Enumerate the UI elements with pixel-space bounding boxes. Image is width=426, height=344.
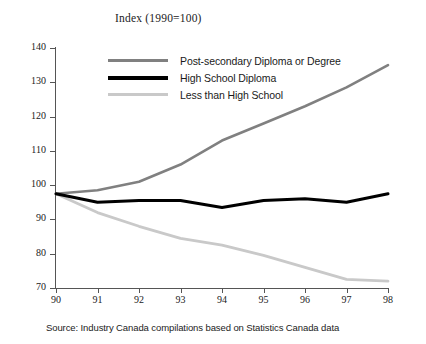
y-tick-label: 130 <box>20 75 46 86</box>
y-tick-mark <box>50 82 55 83</box>
x-tick-label: 97 <box>335 294 359 305</box>
y-tick-mark <box>50 117 55 118</box>
y-tick-mark <box>50 288 55 289</box>
legend-item-post-secondary: Post-secondary Diploma or Degree <box>108 52 341 69</box>
y-tick-label: 140 <box>20 41 46 52</box>
y-tick-mark <box>50 254 55 255</box>
x-tick-label: 98 <box>376 294 400 305</box>
legend-swatch-post-secondary <box>108 59 168 62</box>
x-tick-mark <box>181 288 182 293</box>
y-axis-line <box>55 47 56 289</box>
legend-item-high-school: High School Diploma <box>108 69 341 86</box>
legend-item-less-than-high-school: Less than High School <box>108 86 341 103</box>
y-tick-label: 110 <box>20 144 46 155</box>
series-line <box>56 194 388 281</box>
x-tick-label: 94 <box>210 294 234 305</box>
legend-label-less-than-high-school: Less than High School <box>180 89 283 101</box>
x-tick-mark <box>347 288 348 293</box>
x-tick-mark <box>222 288 223 293</box>
y-tick-label: 100 <box>20 178 46 189</box>
chart-legend: Post-secondary Diploma or Degree High Sc… <box>108 52 341 103</box>
legend-swatch-high-school <box>108 76 168 80</box>
x-tick-mark <box>305 288 306 293</box>
y-tick-mark <box>50 185 55 186</box>
x-tick-label: 95 <box>252 294 276 305</box>
x-tick-mark <box>98 288 99 293</box>
source-note: Source: Industry Canada compilations bas… <box>46 322 339 333</box>
series-line <box>56 194 388 208</box>
chart-title: Index (1990=100) <box>115 12 202 24</box>
x-tick-mark <box>56 288 57 293</box>
legend-swatch-less-than-high-school <box>108 93 168 96</box>
y-tick-label: 120 <box>20 110 46 121</box>
legend-label-high-school: High School Diploma <box>180 72 276 84</box>
y-tick-mark <box>50 219 55 220</box>
x-tick-mark <box>264 288 265 293</box>
y-tick-label: 70 <box>20 281 46 292</box>
x-tick-mark <box>388 288 389 293</box>
x-tick-label: 93 <box>169 294 193 305</box>
chart-figure: Index (1990=100) 708090100110120130140 9… <box>0 0 426 344</box>
x-tick-mark <box>139 288 140 293</box>
x-tick-label: 91 <box>86 294 110 305</box>
x-tick-label: 96 <box>293 294 317 305</box>
y-tick-label: 80 <box>20 247 46 258</box>
y-tick-mark <box>50 151 55 152</box>
x-tick-label: 92 <box>127 294 151 305</box>
legend-label-post-secondary: Post-secondary Diploma or Degree <box>180 55 341 67</box>
y-tick-label: 90 <box>20 212 46 223</box>
y-tick-mark <box>50 48 55 49</box>
x-tick-label: 90 <box>44 294 68 305</box>
